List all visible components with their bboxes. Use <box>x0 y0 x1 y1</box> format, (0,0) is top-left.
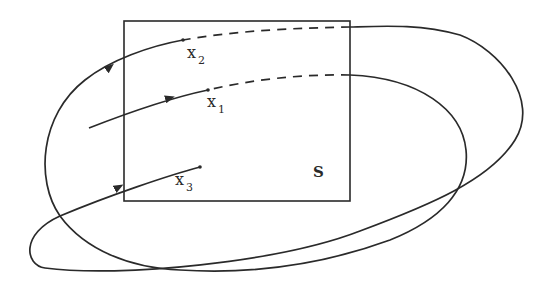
diagram-canvas: x2 x1 x3 S <box>0 0 548 296</box>
arrow-icon <box>108 187 119 193</box>
trajectory-inner <box>45 40 466 271</box>
orbit-diagram: x2 x1 x3 S <box>0 0 548 296</box>
trajectory-incoming-x1 <box>89 90 208 128</box>
trajectory-outer <box>30 26 523 271</box>
point-x3-dot <box>198 165 202 169</box>
trajectory-inner-dashed <box>208 75 350 90</box>
label-x1: x1 <box>207 92 225 116</box>
point-x2-dot <box>181 38 185 42</box>
label-x3: x3 <box>175 170 193 194</box>
label-x2: x2 <box>187 43 205 67</box>
trajectory-outer-dashed <box>183 27 350 40</box>
label-set-s: S <box>313 163 324 181</box>
